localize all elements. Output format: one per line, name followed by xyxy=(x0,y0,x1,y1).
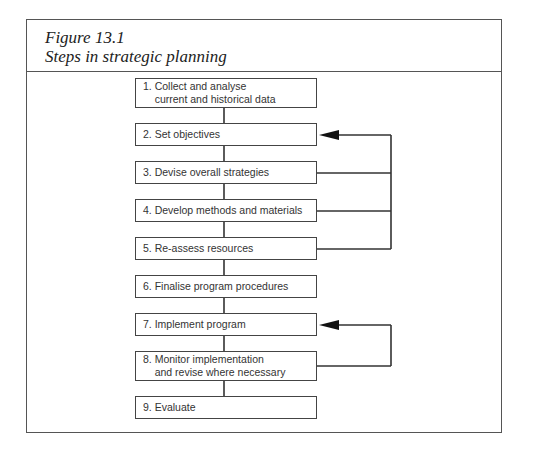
step-label: 7. Implement program xyxy=(143,318,246,331)
step-box-1: 1. Collect and analyse current and histo… xyxy=(135,78,317,108)
arrowhead-icon xyxy=(319,130,339,140)
step-label: 6. Finalise program procedures xyxy=(143,280,288,293)
step-box-7: 7. Implement program xyxy=(135,313,317,336)
step-label: 1. Collect and analyse current and histo… xyxy=(143,80,276,106)
step-box-5: 5. Re-assess resources xyxy=(135,237,317,260)
connector-lines xyxy=(0,0,543,457)
step-label: 9. Evaluate xyxy=(143,401,196,414)
step-label: 5. Re-assess resources xyxy=(143,242,253,255)
step-box-2: 2. Set objectives xyxy=(135,123,317,146)
step-label: 4. Develop methods and materials xyxy=(143,204,302,217)
step-box-4: 4. Develop methods and materials xyxy=(135,199,317,222)
step-box-3: 3. Devise overall strategies xyxy=(135,161,317,184)
step-box-9: 9. Evaluate xyxy=(135,396,317,419)
step-label: 8. Monitor implementation and revise whe… xyxy=(143,353,285,379)
step-box-8: 8. Monitor implementation and revise whe… xyxy=(135,351,317,381)
step-box-6: 6. Finalise program procedures xyxy=(135,275,317,298)
step-label: 2. Set objectives xyxy=(143,128,220,141)
arrowhead-icon xyxy=(319,320,339,330)
step-label: 3. Devise overall strategies xyxy=(143,166,269,179)
